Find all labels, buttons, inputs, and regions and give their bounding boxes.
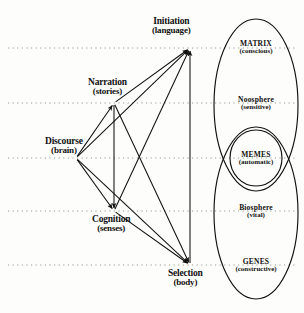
node-label-discourse-secondary: (brain) [45, 146, 83, 156]
node-label-cognition: Cognition(senses) [92, 214, 130, 234]
discourse-to-selection [77, 159, 187, 263]
discourse-to-cognition [77, 160, 112, 209]
ellipse-label-noosphere: Noosphere(sensitive) [238, 96, 274, 112]
cognition-to-initiation [115, 51, 189, 209]
diagram-canvas: Initiation(language)Narration(stories)Di… [0, 0, 304, 313]
ellipse-label-noosphere-secondary: (sensitive) [238, 104, 274, 112]
ellipse-label-biosphere: Biosphere(vital) [239, 204, 273, 220]
ellipse-label-genes: GENES(constructive) [235, 258, 276, 274]
ellipse-label-matrix: MATRIX(conscious) [239, 40, 272, 56]
ellipse-label-memes-secondary: (automatic) [239, 159, 274, 167]
node-label-narration-secondary: (stories) [88, 87, 127, 97]
node-label-selection-secondary: (body) [168, 278, 203, 288]
ellipse-label-matrix-secondary: (conscious) [239, 48, 272, 56]
narration-to-selection [115, 105, 189, 262]
node-label-cognition-secondary: (senses) [92, 224, 130, 234]
node-label-initiation: Initiation(language) [152, 16, 191, 36]
ellipse-label-biosphere-secondary: (vital) [239, 212, 273, 220]
node-label-selection: Selection(body) [168, 268, 203, 288]
discourse-to-initiation [77, 50, 187, 157]
node-label-narration: Narration(stories) [88, 77, 127, 97]
ellipse-label-genes-secondary: (constructive) [235, 266, 276, 274]
node-label-discourse: Discourse(brain) [45, 136, 83, 156]
ellipse-label-memes: MEMES(automatic) [239, 151, 274, 167]
node-label-initiation-secondary: (language) [152, 26, 191, 36]
